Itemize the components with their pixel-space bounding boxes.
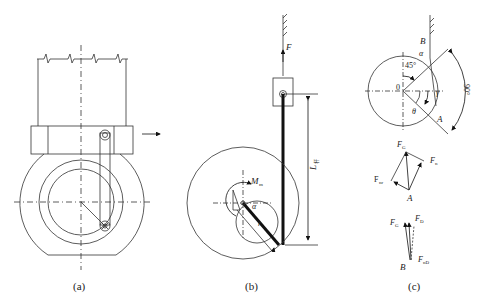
label-angle-45: 45°: [405, 61, 416, 70]
caption-b: (b): [245, 280, 258, 292]
mechanism-diagram: F M m α r L 杆 B α 45° 0 γ θ A 90° F: [0, 0, 478, 303]
label-angle-90: 90°: [462, 84, 471, 95]
label-gamma: γ: [436, 88, 440, 97]
label-point-b-force: B: [400, 262, 406, 272]
panel-c-geometry: [365, 15, 465, 134]
label-length-sub: 杆: [313, 159, 320, 164]
label-alpha-c: α: [419, 49, 424, 58]
label-theta: θ: [412, 107, 416, 116]
label-fg-b-sub: G: [395, 223, 399, 228]
label-moment-sub: m: [259, 182, 263, 187]
panel-c-force-polygon-b: [405, 223, 414, 260]
panel-a: [14, 45, 160, 270]
label-force-f: F: [285, 42, 292, 52]
label-length: L: [308, 165, 318, 171]
label-point-a-top: A: [436, 114, 443, 124]
label-point-a-force: A: [406, 193, 413, 203]
panel-c-force-polygon-a: [391, 152, 424, 190]
label-fnr-sub: nr: [379, 180, 384, 185]
label-fg-a-sub: G: [402, 145, 406, 150]
label-fd-sub: D: [420, 219, 424, 224]
caption-c: (c): [408, 280, 420, 292]
label-moment: M: [250, 176, 259, 186]
label-fn-sub: n: [435, 161, 438, 166]
label-point-o: 0: [396, 83, 400, 92]
label-fnd-sub: nD: [423, 260, 430, 265]
caption-a: (a): [73, 280, 85, 292]
label-point-b-top: B: [420, 36, 426, 46]
panel-b: [187, 14, 318, 259]
